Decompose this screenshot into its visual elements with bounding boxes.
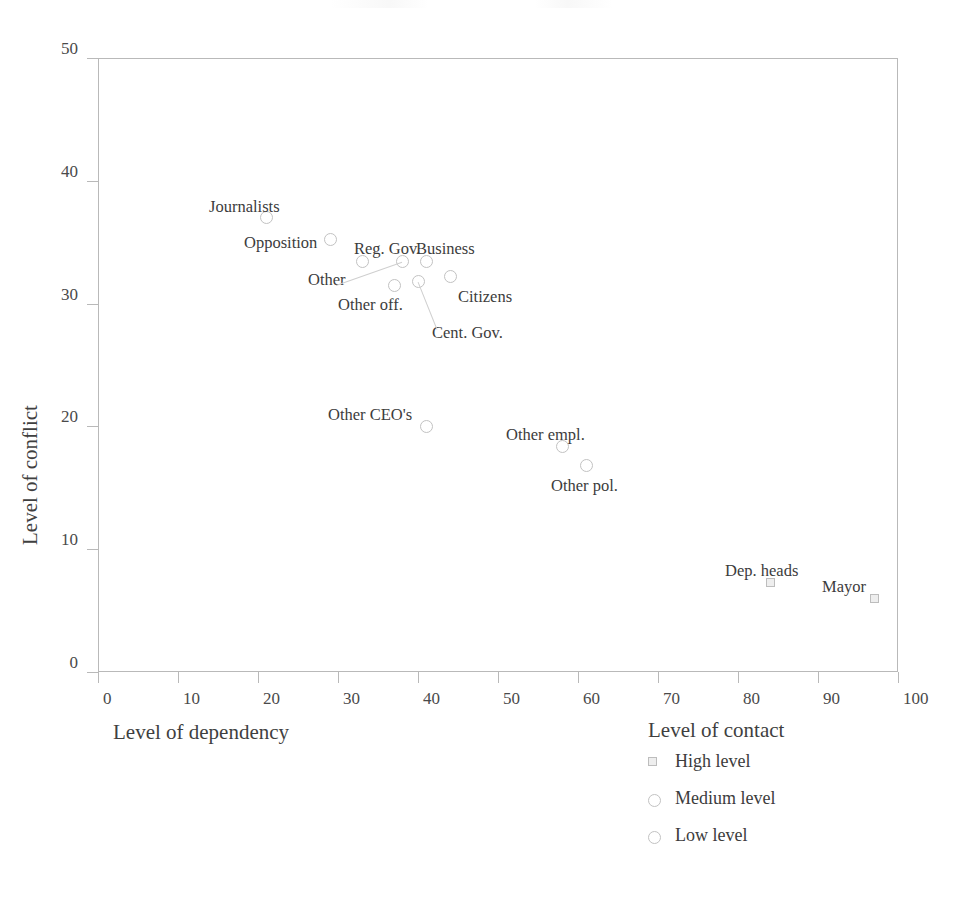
x-tick-label: 100	[903, 690, 929, 707]
legend-item-label: Medium level	[675, 788, 775, 809]
x-tick-label: 80	[743, 690, 760, 707]
x-tick	[898, 672, 899, 683]
legend-item-label: Low level	[675, 825, 747, 846]
data-point-marker[interactable]	[444, 270, 457, 283]
data-point-marker[interactable]	[580, 459, 593, 472]
y-tick-label: 20	[38, 408, 78, 425]
y-tick-label: 10	[38, 531, 78, 548]
y-tick	[87, 58, 98, 59]
data-point-label: Opposition	[244, 235, 317, 252]
x-tick-label: 60	[583, 690, 600, 707]
y-tick	[87, 549, 98, 550]
data-point-label: Dep. heads	[725, 563, 798, 580]
cropped-title-artifact	[330, 0, 660, 8]
y-axis-title: Level of conflict	[18, 405, 43, 545]
x-tick	[818, 672, 819, 683]
y-tick-label: 40	[38, 163, 78, 180]
data-point-label: Other empl.	[506, 427, 585, 444]
y-tick	[87, 304, 98, 305]
x-axis-title: Level of dependency	[113, 720, 289, 745]
x-tick-label: 10	[183, 690, 200, 707]
data-point-label: Mayor	[822, 579, 866, 596]
y-tick	[87, 426, 98, 427]
x-tick	[178, 672, 179, 683]
scatter-chart-figure: Level of conflict 01020304050 0102030405…	[0, 0, 973, 901]
y-tick	[87, 672, 98, 673]
x-tick	[338, 672, 339, 683]
x-tick	[498, 672, 499, 683]
data-point-marker[interactable]	[324, 233, 337, 246]
data-point-label: Business	[416, 241, 475, 258]
x-tick-label: 90	[823, 690, 840, 707]
circle-marker-icon	[648, 794, 661, 807]
data-point-label: Cent. Gov.	[432, 325, 503, 342]
y-tick-label: 50	[38, 40, 78, 57]
data-point-label: Other	[308, 272, 346, 289]
data-point-label: Other CEO's	[328, 407, 412, 424]
legend-item-label: High level	[675, 751, 750, 772]
data-point-label: Other pol.	[551, 478, 618, 495]
x-tick	[258, 672, 259, 683]
data-point-label: Other off.	[338, 297, 403, 314]
x-tick-label: 50	[503, 690, 520, 707]
x-tick	[658, 672, 659, 683]
x-tick-label: 0	[103, 690, 112, 707]
data-point-label: Citizens	[458, 289, 512, 306]
legend-title: Level of contact	[648, 718, 784, 743]
data-point-marker[interactable]	[388, 279, 401, 292]
y-tick-label: 0	[38, 654, 78, 671]
x-tick-label: 70	[663, 690, 680, 707]
x-tick-label: 20	[263, 690, 280, 707]
x-tick	[578, 672, 579, 683]
data-point-label: Reg. Gov.	[354, 241, 420, 258]
data-point-marker[interactable]	[870, 594, 879, 603]
x-tick	[418, 672, 419, 683]
x-tick	[738, 672, 739, 683]
data-point-label: Journalists	[209, 199, 280, 216]
x-tick-label: 30	[343, 690, 360, 707]
circle-marker-icon	[648, 831, 661, 844]
square-marker-icon	[648, 757, 657, 766]
data-point-marker[interactable]	[420, 420, 433, 433]
x-tick-label: 40	[423, 690, 440, 707]
y-tick	[87, 181, 98, 182]
y-tick-label: 30	[38, 286, 78, 303]
x-tick	[98, 672, 99, 683]
